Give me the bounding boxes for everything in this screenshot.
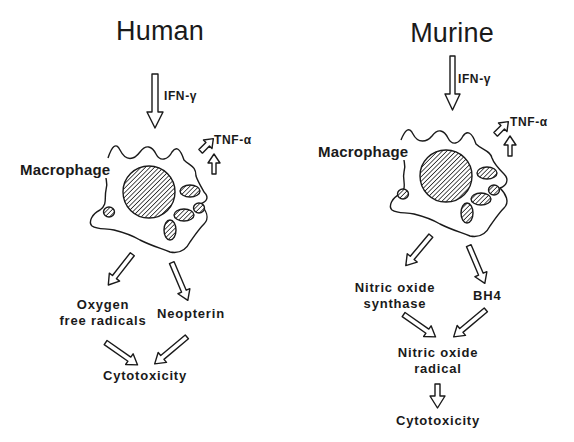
- arrow-bh4-to-no-radical: [450, 305, 491, 342]
- panel-title-human: Human: [116, 18, 204, 45]
- node-cytotoxicity-murine: Cytotoxicity: [396, 414, 480, 427]
- organelle-human: [104, 207, 115, 217]
- pathway-diagram: [0, 0, 574, 442]
- tnf-alpha-out-arrow-murine: [504, 136, 516, 156]
- arrow-to-neopterin: [166, 260, 194, 303]
- macrophage-label-murine: Macrophage: [318, 144, 408, 159]
- tnf-alpha-out-arrow-human: [208, 154, 220, 174]
- organelle-murine: [471, 193, 491, 205]
- tnf-alpha-label-murine: TNF-α: [510, 116, 548, 128]
- arrow-to-bh4: [463, 243, 491, 286]
- ifn-gamma-label-human: IFN-γ: [164, 90, 197, 102]
- arrow-neopterin-to-cytotoxicity: [151, 332, 192, 369]
- arrow-nos-to-no-radical: [400, 309, 439, 342]
- macrophage-label-human: Macrophage: [20, 162, 110, 177]
- node-no-radical-line1: Nitric oxide: [398, 345, 478, 361]
- arrow-oxygen-to-cytotoxicity: [102, 337, 141, 370]
- node-bh4: BH4: [473, 288, 501, 304]
- nucleus-murine: [420, 150, 472, 202]
- organelle-human: [194, 203, 205, 213]
- arrow-to-oxygen-radicals: [103, 250, 137, 289]
- tnf-alpha-label-human: TNF-α: [214, 134, 252, 146]
- node-oxygen-radicals-line1: Oxygen: [59, 297, 146, 313]
- organelle-human: [174, 209, 194, 221]
- node-oxygen-radicals: Oxygen free radicals: [59, 297, 146, 329]
- ifn-gamma-arrow-human: [147, 74, 163, 128]
- nucleus-human: [123, 166, 175, 218]
- node-nitric-oxide-synthase: Nitric oxide synthase: [355, 280, 435, 312]
- ifn-gamma-label-murine: IFN-γ: [458, 73, 491, 85]
- panel-title-murine: Murine: [410, 20, 494, 47]
- node-oxygen-radicals-line2: free radicals: [59, 313, 146, 329]
- organelle-human: [180, 185, 200, 197]
- arrow-no-radical-to-cytotoxicity: [430, 384, 445, 408]
- node-cytotoxicity-human: Cytotoxicity: [103, 369, 187, 382]
- node-nos-line1: Nitric oxide: [355, 280, 435, 296]
- arrow-to-nos: [401, 232, 436, 270]
- organelle-murine: [461, 203, 473, 223]
- organelle-murine: [489, 185, 500, 195]
- organelle-murine: [477, 167, 497, 179]
- node-neopterin: Neopterin: [157, 306, 225, 322]
- organelle-murine: [398, 189, 409, 199]
- node-no-radical-line2: radical: [398, 361, 478, 377]
- node-nitric-oxide-radical: Nitric oxide radical: [398, 345, 478, 377]
- organelle-human: [164, 220, 176, 240]
- node-nos-line2: synthase: [355, 296, 435, 312]
